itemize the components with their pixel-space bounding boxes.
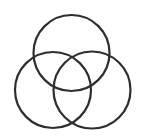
venn-diagram	[0, 0, 142, 140]
